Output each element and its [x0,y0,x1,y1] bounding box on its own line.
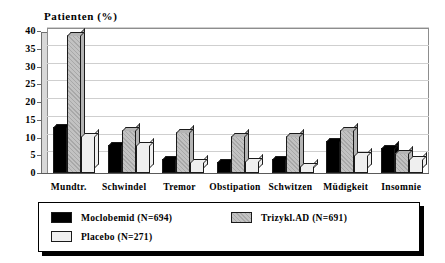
x-axis-tick-label: Insomnie [374,182,429,192]
y-axis-tick-label: 25 [25,79,36,89]
plot-area: 0510152025303540 [16,28,431,180]
x-axis-tick-label: Schwindel [96,182,151,192]
y-axis-tick [37,102,41,103]
bar [217,162,231,173]
bar [381,148,395,173]
bar [354,155,368,173]
bar [136,145,150,173]
bar [340,130,354,173]
bar-groups [47,28,429,174]
x-axis-tick-label: Mundtr. [41,182,96,192]
y-axis-tick-label: 40 [25,26,36,36]
plot-frame [41,28,429,174]
x-axis-tick-label: Obstipation [207,182,262,192]
x-axis-labels: Mundtr.SchwindelTremorObstipationSchwitz… [41,182,429,192]
bar [67,35,81,173]
y-axis-tick [37,120,41,121]
y-axis-tick-label: 30 [25,62,36,72]
y-axis-labels: 0510152025303540 [16,28,36,174]
y-axis-tick [37,67,41,68]
bar [409,159,423,173]
legend-label: Trizykl.AD (N=691) [261,213,347,223]
bar-side-face [423,152,427,168]
y-axis-tick [37,84,41,85]
legend-swatch-gray-icon [231,212,252,223]
legend-swatch-light-icon [51,231,72,242]
y-axis-tick [37,173,41,174]
bar-group [156,28,211,174]
bar [190,162,204,173]
y-axis-tick-label: 20 [25,97,36,107]
bar [300,166,314,173]
x-axis-tick-label: Schwitzen [263,182,318,192]
bar-group [47,28,102,174]
bar-group [320,28,375,174]
bar [108,145,122,173]
bar [272,159,286,173]
legend-label: Moclobemid (N=694) [81,213,172,223]
x-axis-tick-label: Tremor [152,182,207,192]
bar [81,136,95,173]
legend-item-trizykl: Trizykl.AD (N=691) [231,212,347,223]
bar-group [374,28,429,174]
bar [326,141,340,173]
chart-title: Patienten (%) [44,10,117,22]
bar-group [211,28,266,174]
y-axis-tick-label: 10 [25,133,36,143]
y-axis-tick [37,31,41,32]
chart-legend: Moclobemid (N=694) Trizykl.AD (N=691) Pl… [38,202,420,252]
y-axis-tick-label: 15 [25,115,36,125]
x-axis-tick-label: Müdigkeit [318,182,373,192]
bar [162,159,176,173]
bar [286,136,300,173]
y-axis-tick [37,138,41,139]
y-axis-tick-label: 0 [31,168,36,178]
legend-swatch-black-icon [51,212,72,223]
chart-figure: Patienten (%) 0510152025303540 Mundtr.Sc… [0,0,445,263]
bar [245,161,259,173]
bar-group [102,28,157,174]
legend-label: Placebo (N=271) [81,232,152,242]
y-axis-tick-label: 35 [25,44,36,54]
y-axis-tick [37,155,41,156]
bar [53,127,67,173]
bar [231,136,245,173]
bar [395,153,409,173]
legend-item-moclobemid: Moclobemid (N=694) [51,212,172,223]
y-axis-tick-label: 5 [31,150,36,160]
y-axis-tick [37,49,41,50]
legend-item-placebo: Placebo (N=271) [51,231,152,242]
bar-group [265,28,320,174]
bar [122,130,136,173]
bar [176,132,190,173]
